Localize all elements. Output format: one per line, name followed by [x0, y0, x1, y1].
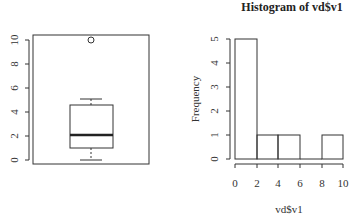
bar-4-6 [278, 135, 300, 159]
svg-text:0: 0 [8, 157, 20, 163]
histogram-y-ticks [226, 39, 230, 159]
bar-8-10 [322, 135, 343, 159]
figure: 0 2 4 6 8 10 Histogram of vd$v1 [0, 0, 356, 224]
histogram-y-tick-labels: 0 1 2 3 4 5 [208, 36, 220, 162]
histogram-bars [235, 39, 343, 159]
histogram-x-tick-labels: 0 2 4 6 8 10 [232, 177, 349, 189]
histogram-panel: Histogram of vd$v1 0 1 2 3 4 5 Frequency [189, 0, 349, 215]
histogram-title: Histogram of vd$v1 [241, 0, 342, 14]
svg-text:6: 6 [8, 85, 20, 91]
histogram-x-ticks [235, 164, 343, 168]
bar-0-2 [235, 39, 257, 159]
svg-text:0: 0 [232, 177, 238, 189]
svg-text:8: 8 [319, 177, 325, 189]
svg-text:5: 5 [208, 36, 220, 42]
boxplot-y-ticks [25, 40, 29, 160]
svg-text:2: 2 [208, 108, 220, 114]
svg-text:10: 10 [8, 34, 20, 46]
svg-text:0: 0 [208, 156, 220, 162]
svg-text:2: 2 [8, 133, 20, 139]
outlier-point [88, 37, 94, 43]
iqr-box [70, 105, 113, 148]
svg-text:2: 2 [254, 177, 260, 189]
boxplot-y-tick-labels: 0 2 4 6 8 10 [8, 34, 20, 163]
histogram-y-label: Frequency [189, 75, 201, 122]
svg-text:10: 10 [338, 177, 350, 189]
svg-text:4: 4 [8, 109, 20, 115]
svg-text:6: 6 [297, 177, 303, 189]
svg-text:8: 8 [8, 61, 20, 67]
svg-text:3: 3 [208, 84, 220, 90]
bar-2-4 [257, 135, 278, 159]
boxplot-panel: 0 2 4 6 8 10 [8, 34, 149, 164]
svg-text:4: 4 [208, 60, 220, 66]
svg-text:1: 1 [208, 132, 220, 138]
histogram-x-label: vd$v1 [275, 203, 303, 215]
svg-text:4: 4 [275, 177, 281, 189]
